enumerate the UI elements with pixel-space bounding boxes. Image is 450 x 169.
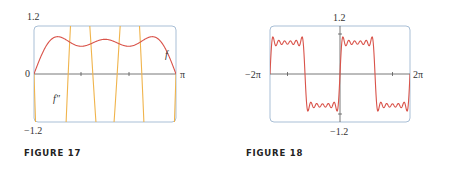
figures-canvas: 1.2 −1.2 0 π f f″ 1.2 −1.2 −2π 2π [0,0,450,169]
figure-18-caption: FIGURE 18 [246,148,303,158]
fig17-y-tick-label-bottom: −1.2 [24,125,42,136]
fig17-x-tick-label-end: π [180,69,185,80]
fig17-label-f-double-prime: f″ [53,93,61,104]
fig17-y-tick-label-top: 1.2 [27,11,40,22]
fig18-y-tick-label-top: 1.2 [333,12,346,23]
fig18-x-tick-label-start: −2π [245,69,261,80]
fig18-y-tick-label-bottom: −1.2 [330,126,348,137]
figure-17: 1.2 −1.2 0 π f f″ [24,6,185,142]
figure-17-caption: FIGURE 17 [24,148,81,158]
figure-18: 1.2 −1.2 −2π 2π [245,12,423,137]
fig17-series-f [34,37,176,74]
fig18-x-tick-label-end: 2π [413,69,423,80]
fig17-x-tick-label-start: 0 [25,68,30,79]
